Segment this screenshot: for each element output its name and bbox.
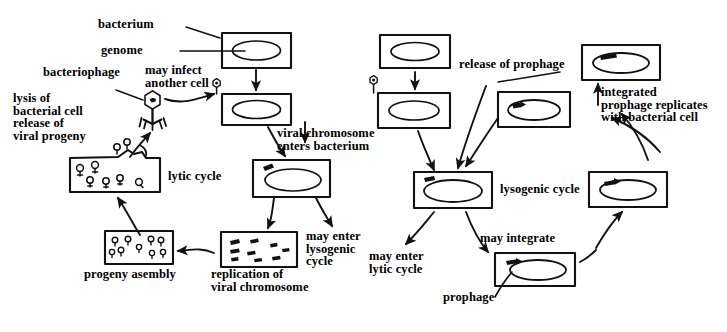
label-may-enter-lytic-cycle: may enter lytic cycle <box>369 250 424 275</box>
label-may-integrate: may integrate <box>480 232 555 245</box>
arrow-may-infect-another-cell <box>165 94 214 102</box>
label-viral-chromosome-enters: viral chromosome enters bacterium <box>277 127 375 152</box>
arrow-prophage-tail <box>580 250 596 262</box>
cell-with-viral-chromosome <box>253 160 330 197</box>
viral-chromosome-mark <box>263 164 274 172</box>
leader-bacterium <box>186 27 220 38</box>
label-replication-of-viral-chromosome: replication of viral chromosome <box>211 268 309 293</box>
free-phage-particles <box>77 139 143 188</box>
phage-life-cycle-diagram: bacterium genome bacteriophage may infec… <box>0 0 727 332</box>
cell-healthy-bacterium-right <box>380 35 450 68</box>
arrow-to-lysogenic-option <box>316 198 332 226</box>
leader-release-of-prophage <box>498 72 560 82</box>
attached-phage-icon-left <box>213 79 220 94</box>
cell-infected-bacterium-right <box>370 76 450 128</box>
cell-prophage <box>495 253 575 286</box>
cell-progeny-assembly <box>105 231 173 264</box>
label-bacterium: bacterium <box>98 18 154 31</box>
cell-replicated-lysogen <box>582 45 660 80</box>
arrow-assembly-to-lysis <box>118 198 140 235</box>
arrow-may-enter-lytic-cycle <box>406 212 434 244</box>
label-lysogenic-cycle: lysogenic cycle <box>500 183 580 196</box>
arrow-right-infected-to-lysogenic <box>418 131 434 170</box>
label-may-enter-lysogenic-cycle: may enter lysogenic cycle <box>306 230 361 268</box>
label-lysis-release: lysis of bacterial cell release of viral… <box>13 92 86 142</box>
arrow-prophage-to-lysogen-right <box>596 212 622 248</box>
replicated-chromosome-fragments <box>230 239 290 263</box>
cell-replication <box>221 232 297 267</box>
assembled-phage-particles <box>109 236 165 258</box>
cell-released-prophage <box>498 92 570 127</box>
label-lytic-cycle: lytic cycle <box>168 170 222 183</box>
label-genome: genome <box>101 44 143 57</box>
cell-lysing <box>70 139 160 192</box>
cell-lysogenic-left <box>414 172 492 208</box>
label-release-of-prophage: release of prophage <box>459 58 565 71</box>
arrow-replication-to-assembly <box>178 249 214 253</box>
label-bacteriophage: bacteriophage <box>43 66 120 79</box>
label-prophage: prophage <box>443 291 494 304</box>
label-integrated-prophage-replicates: integrated prophage replicates with bact… <box>601 86 708 124</box>
arrow-to-replication <box>268 198 274 228</box>
label-progeny-assembly: progeny asembly <box>84 268 176 281</box>
leader-prophage <box>495 272 512 297</box>
bacteriophage-icon <box>140 91 167 130</box>
cell-lysogenic-right <box>589 172 667 207</box>
label-may-infect-another-cell: may infect another cell <box>145 64 209 89</box>
attached-phage-icon-right <box>370 76 377 93</box>
leader-bacteriophage <box>116 90 143 100</box>
cell-infected-bacterium-left <box>213 79 291 125</box>
